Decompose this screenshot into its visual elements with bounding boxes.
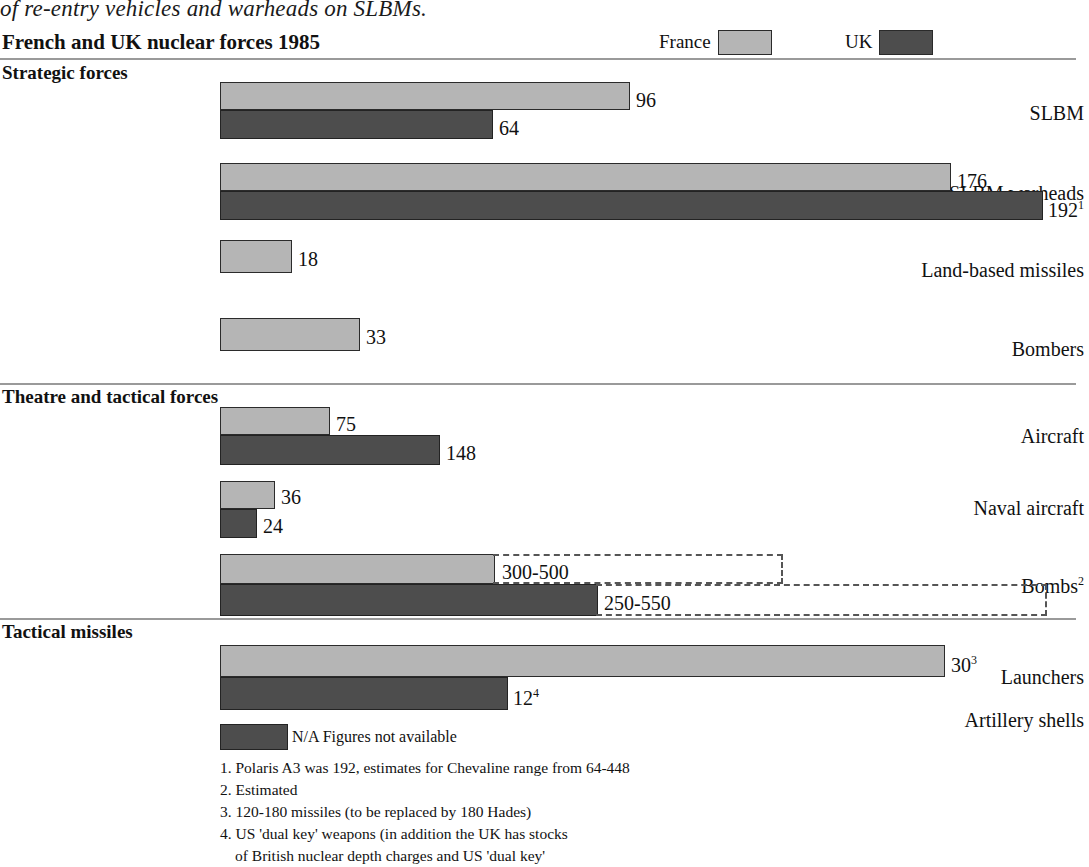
footnotes: 1. Polaris A3 was 192, estimates for Che… [220, 757, 630, 867]
bar-value-launchers-france: 303 [951, 654, 977, 675]
bar-bombs-uk [220, 584, 598, 616]
footnote-marker: 3 [971, 653, 977, 667]
category-label-naval-aircraft: Naval aircraft [873, 497, 1089, 520]
running-text: of re-entry vehicles and warheads on SLB… [0, 0, 427, 22]
bar-bombs-france [220, 554, 495, 584]
bar-value-text: 30 [951, 654, 971, 676]
bar-aircraft-uk [220, 435, 440, 465]
bar-group-land-based-missiles: Land-based missiles 18 [0, 240, 1089, 280]
bar-group-bombers: Bombers 33 [0, 318, 1089, 358]
bar-value-bombs-france: 300-500 [502, 562, 569, 582]
bar-value-slbm-uk: 64 [499, 118, 519, 138]
category-label-aircraft: Aircraft [873, 425, 1089, 448]
bar-slbm-france [220, 82, 630, 110]
section-heading-theatre: Theatre and tactical forces [2, 386, 218, 408]
footnote-1: 1. Polaris A3 was 192, estimates for Che… [220, 757, 630, 779]
category-label-slbm: SLBM [873, 102, 1089, 125]
footnote-2: 2. Estimated [220, 779, 630, 801]
bar-group-aircraft: Aircraft 75 148 [0, 407, 1089, 469]
bar-value-launchers-uk: 124 [513, 687, 539, 708]
bar-value-bombers-france: 33 [366, 327, 386, 347]
bar-group-launchers: Launchers 303 124 [0, 645, 1089, 711]
bar-value-text: 192 [1048, 199, 1078, 221]
bar-artillery-shells-na [220, 724, 288, 750]
divider-tactical [0, 618, 1076, 620]
legend-swatch-france [718, 30, 772, 55]
footnote-marker: 2 [1078, 574, 1084, 588]
bar-group-bombs: Bombs2 300-500 250-550 [0, 554, 1089, 622]
legend-item-uk: UK [845, 29, 933, 55]
bar-value-land-based-missiles-france: 18 [298, 249, 318, 269]
na-label: N/A Figures not available [292, 728, 457, 746]
page-title: French and UK nuclear forces 1985 [2, 30, 320, 55]
bar-value-naval-aircraft-france: 36 [281, 487, 301, 507]
bar-slbm-warheads-france [220, 163, 951, 191]
category-label-land-based-missiles: Land-based missiles [873, 259, 1089, 282]
bar-value-bombs-uk: 250-550 [604, 593, 671, 613]
bar-group-slbm-warheads: SLBM warheads 176 1921 [0, 163, 1089, 229]
title-row: French and UK nuclear forces 1985 France… [0, 30, 1089, 58]
footnote-4-continued: of British nuclear depth charges and US … [220, 845, 630, 867]
bar-launchers-uk [220, 677, 508, 710]
footnote-marker: 1 [1078, 198, 1084, 212]
footnote-marker: 4 [533, 686, 539, 700]
divider-theatre [0, 383, 1076, 385]
bar-value-text: 12 [513, 687, 533, 709]
bar-slbm-uk [220, 110, 493, 139]
legend-swatch-uk [879, 30, 933, 55]
bar-value-aircraft-uk: 148 [446, 443, 476, 463]
section-heading-strategic: Strategic forces [2, 62, 128, 84]
bar-launchers-france [220, 645, 945, 677]
legend-label-uk: UK [845, 31, 872, 53]
bar-slbm-warheads-uk [220, 191, 1043, 220]
bar-naval-aircraft-uk [220, 509, 257, 538]
bar-naval-aircraft-france [220, 481, 275, 509]
footnote-4: 4. US 'dual key' weapons (in addition th… [220, 823, 630, 845]
category-label-bombers: Bombers [873, 338, 1089, 361]
bar-value-naval-aircraft-uk: 24 [263, 516, 283, 536]
section-heading-tactical: Tactical missiles [2, 621, 133, 643]
bar-land-based-missiles-france [220, 240, 292, 273]
footnote-3: 3. 120-180 missiles (to be replaced by 1… [220, 801, 630, 823]
divider-top [0, 58, 1076, 60]
legend-item-france: France [659, 29, 772, 55]
legend: France UK [659, 30, 1089, 58]
legend-label-france: France [659, 31, 711, 53]
bar-group-slbm: SLBM 96 64 [0, 82, 1089, 146]
bar-aircraft-france [220, 407, 330, 435]
bar-value-slbm-warheads-france: 176 [957, 171, 987, 191]
bar-group-artillery-shells: Artillery shells N/A Figures not availab… [0, 713, 1089, 747]
bar-bombers-france [220, 318, 360, 351]
bar-value-slbm-warheads-uk: 1921 [1048, 199, 1084, 220]
category-label-artillery-shells: Artillery shells [873, 709, 1089, 732]
bar-value-slbm-france: 96 [636, 90, 656, 110]
bar-value-aircraft-france: 75 [336, 414, 356, 434]
na-row: N/A Figures not available [220, 724, 457, 750]
bar-group-naval-aircraft: Naval aircraft 36 24 [0, 481, 1089, 541]
